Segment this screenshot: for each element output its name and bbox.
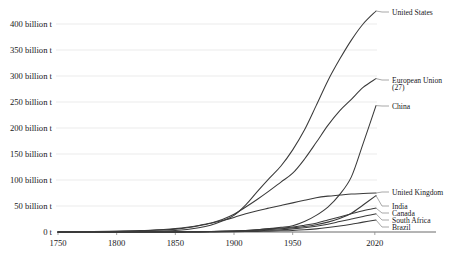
x-axis-tick-label: 1800 xyxy=(108,238,125,248)
y-axis-tick-label: 150 billion t xyxy=(10,149,53,159)
y-axis-tick-label: 300 billion t xyxy=(10,71,53,81)
series-label-european-union-27[interactable]: European Union(27) xyxy=(392,76,442,93)
cumulative-co2-emissions-line-chart: 400 billion t350 billion t300 billion t2… xyxy=(0,0,449,253)
y-axis-tick-label: 400 billion t xyxy=(10,19,53,29)
x-axis-tick-label: 2020 xyxy=(366,238,383,248)
y-axis-tick-label: 100 billion t xyxy=(10,175,53,185)
leader-line xyxy=(376,192,389,193)
leader-line xyxy=(376,79,389,80)
series-label-united-states[interactable]: United States xyxy=(392,8,433,17)
series-label-china[interactable]: China xyxy=(392,102,411,111)
leader-line xyxy=(376,214,389,220)
y-axis-tick-label: 50 billion t xyxy=(14,201,52,211)
series-label-united-kingdom[interactable]: United Kingdom xyxy=(392,188,443,197)
leader-line xyxy=(376,11,389,12)
y-axis-tick-label: 350 billion t xyxy=(10,45,53,55)
x-axis-tick-label: 1750 xyxy=(49,238,66,248)
leader-line xyxy=(376,220,389,227)
y-axis-tick-label: 0 t xyxy=(43,227,52,237)
y-axis-tick-label: 200 billion t xyxy=(10,123,53,133)
y-axis-tick-label: 250 billion t xyxy=(10,97,53,107)
series-line-canada xyxy=(58,208,376,232)
x-axis-tick-label: 1850 xyxy=(167,238,184,248)
series-line-india xyxy=(58,196,376,232)
series-curves-group xyxy=(58,11,376,232)
y-axis-labels-group: 400 billion t350 billion t300 billion t2… xyxy=(10,19,53,237)
gridlines-group xyxy=(56,24,377,206)
x-axis-group: 175018001850190019502020 xyxy=(49,232,436,248)
series-leader-lines-group xyxy=(376,11,389,227)
x-axis-tick-label: 1950 xyxy=(284,238,301,248)
leader-line xyxy=(376,208,389,213)
series-line-united-kingdom xyxy=(58,193,376,232)
series-labels-group: United StatesEuropean Union(27)ChinaUnit… xyxy=(392,8,443,232)
leader-line xyxy=(376,196,389,206)
chart-container: 400 billion t350 billion t300 billion t2… xyxy=(0,0,449,253)
series-label-brazil[interactable]: Brazil xyxy=(392,223,411,232)
series-line-united-states xyxy=(58,11,376,232)
x-axis-tick-label: 1900 xyxy=(225,238,242,248)
